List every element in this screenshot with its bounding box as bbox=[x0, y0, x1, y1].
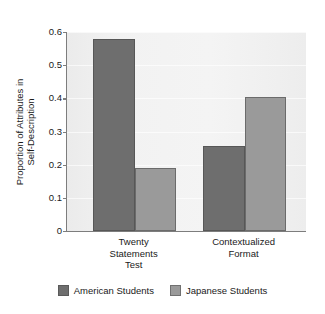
legend-label: American Students bbox=[74, 285, 154, 296]
y-axis-tick-label: 0.3 bbox=[36, 127, 62, 137]
x-axis-category-label: ContextualizedFormat bbox=[189, 236, 299, 259]
y-axis-tick-labels: 00.10.20.30.40.50.6 bbox=[36, 0, 62, 314]
bar bbox=[93, 39, 135, 231]
gridline bbox=[67, 32, 306, 33]
legend-label: Japanese Students bbox=[186, 285, 267, 296]
chart-legend: American StudentsJapanese Students bbox=[0, 285, 325, 296]
legend-item: Japanese Students bbox=[170, 285, 267, 296]
bar bbox=[245, 97, 287, 231]
legend-color-swatch bbox=[58, 285, 69, 296]
bar-chart-figure: Proportion of Attributes in Self-Descrip… bbox=[0, 0, 325, 314]
y-axis-tick-label: 0.6 bbox=[36, 27, 62, 37]
plot-area bbox=[66, 32, 306, 232]
x-axis-category-label-line: Test bbox=[79, 259, 189, 271]
y-axis-title-line-2: Self-Description bbox=[25, 79, 36, 186]
y-axis-title: Proportion of Attributes in Self-Descrip… bbox=[14, 32, 36, 232]
y-axis-tick-label: 0 bbox=[36, 226, 62, 236]
legend-color-swatch bbox=[170, 285, 181, 296]
x-axis-category-labels: TwentyStatementsTestContextualizedFormat bbox=[66, 236, 305, 278]
bar bbox=[135, 168, 177, 231]
y-axis-tick-label: 0.4 bbox=[36, 93, 62, 103]
x-axis-category-label-line: Contextualized bbox=[189, 236, 299, 248]
x-axis-category-label-line: Format bbox=[189, 248, 299, 260]
y-axis-tick-label: 0.1 bbox=[36, 193, 62, 203]
y-axis-title-line-1: Proportion of Attributes in bbox=[14, 79, 25, 186]
x-axis-category-label: TwentyStatementsTest bbox=[79, 236, 189, 271]
legend-item: American Students bbox=[58, 285, 154, 296]
y-axis-tick-label: 0.2 bbox=[36, 160, 62, 170]
x-axis-category-label-line: Twenty bbox=[79, 236, 189, 248]
bar bbox=[203, 146, 245, 231]
y-axis-tick-label: 0.5 bbox=[36, 60, 62, 70]
x-axis-category-label-line: Statements bbox=[79, 248, 189, 260]
y-axis-tick-mark bbox=[63, 231, 67, 232]
